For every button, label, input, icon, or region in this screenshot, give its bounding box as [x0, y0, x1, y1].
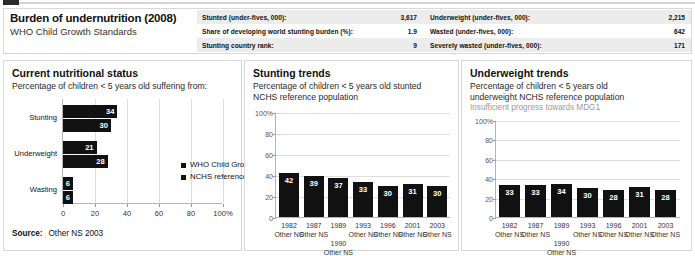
bar: 21 [63, 141, 97, 154]
panel-current-nutritional-status: Current nutritional status Percentage of… [3, 60, 242, 251]
x-axis-year-label: 2003 [658, 222, 674, 229]
stat-value: 3,617 [400, 14, 423, 21]
panel-subtitle: Percentage of children < 5 years old suf… [12, 81, 241, 92]
stat-row: Stunting country rank: 9 Severely wasted… [197, 38, 691, 52]
stat-value: 642 [674, 28, 691, 35]
panel-stunting-trends: Stunting trends Percentage of children <… [244, 60, 459, 251]
grid-line [496, 179, 680, 180]
legend-swatch [181, 163, 186, 168]
bar-value-label: 30 [577, 191, 598, 200]
grid-line [276, 155, 450, 156]
y-axis-tick [493, 140, 496, 141]
stat-label: Severely wasted (under-fives, 000): [430, 42, 542, 49]
stunting-trends-chart: 020406080100%421982Other NS391987Other N… [245, 61, 458, 250]
x-axis-tick [63, 204, 64, 207]
y-axis-tick-label: 60 [265, 152, 273, 159]
stat-label: Wasted (under-fives, 000): [430, 28, 513, 35]
source-line: Source:Other NS 2003 [12, 229, 103, 238]
top-rule [19, 2, 695, 4]
bar-value-label: 6 [66, 178, 70, 189]
panel-title: Current nutritional status [12, 67, 241, 79]
x-axis-source-label: Other NS [573, 231, 602, 238]
x-axis-tick-label: 0 [61, 209, 65, 218]
bar: 42 [279, 173, 299, 217]
stat-cell: Underweight (under-fives, 000): 2,215 [423, 10, 691, 24]
x-axis-source-label: Other NS [547, 249, 576, 256]
bar-value-label: 28 [96, 156, 104, 167]
page-subtitle: WHO Child Growth Standards [10, 26, 191, 38]
grid-line [223, 99, 224, 203]
stat-cell: Stunting country rank: 9 [197, 38, 423, 52]
x-axis-source-label: Other NS [299, 231, 328, 238]
chart-plot-area: 020406080100%421982Other NS391987Other N… [275, 113, 450, 218]
x-axis-source-label: Other NS [521, 231, 550, 238]
stat-value: 9 [413, 42, 423, 49]
source-label: Source: [12, 229, 42, 238]
source-value: Other NS 2003 [48, 229, 103, 238]
bar-value-label: 33 [525, 188, 546, 197]
bar: 33 [525, 185, 546, 217]
bar: 31 [629, 187, 650, 217]
category-label: Underweight [0, 149, 57, 158]
burden-header-band: Burden of undernutrition (2008) WHO Chil… [3, 8, 692, 54]
page-title: Burden of undernutrition (2008) [10, 12, 191, 25]
x-axis-year-label: 1996 [606, 222, 622, 229]
y-axis-tick [493, 199, 496, 200]
x-axis-year-label: 1982 [502, 222, 518, 229]
stat-value: 171 [674, 42, 691, 49]
y-axis-tick [273, 197, 276, 198]
grid-line [276, 176, 450, 177]
x-axis-year-label: 1996 [380, 222, 396, 229]
header-title-cell: Burden of undernutrition (2008) WHO Chil… [4, 9, 197, 53]
x-axis-tick-label: 80 [187, 209, 195, 218]
panel-underweight-trends: Underweight trends Percentage of childre… [461, 60, 692, 251]
x-axis-tick-label: 20 [91, 209, 99, 218]
y-axis-tick [273, 113, 276, 114]
x-axis-source-label: Other NS [423, 231, 452, 238]
bar-value-label: 21 [85, 142, 93, 153]
grid-line [496, 160, 680, 161]
y-axis-tick [493, 121, 496, 122]
y-axis-tick [493, 160, 496, 161]
category-label: Wasting [0, 185, 57, 194]
x-axis-year-label: 2001 [405, 222, 421, 229]
x-axis-source-label: Other NS [495, 231, 524, 238]
y-axis-tick [273, 218, 276, 219]
bar: 34 [63, 105, 117, 118]
bar-value-label: 31 [403, 187, 423, 196]
x-axis-tick [95, 204, 96, 207]
bar-value-label: 42 [279, 176, 299, 185]
bar: 6 [63, 191, 73, 204]
y-axis-tick-label: 80 [485, 137, 493, 144]
grid-line [127, 99, 128, 203]
stat-row: Stunted (under-fives, 000): 3,617 Underw… [197, 10, 691, 24]
bar-value-label: 37 [328, 181, 348, 190]
y-axis-tick [493, 179, 496, 180]
x-axis-tick-label: 60 [155, 209, 163, 218]
bar-value-label: 34 [106, 106, 114, 117]
x-axis-tick-label: 40 [123, 209, 131, 218]
y-axis-tick-label: 40 [485, 176, 493, 183]
x-axis-tick [159, 204, 160, 207]
burden-stats-grid: Stunted (under-fives, 000): 3,617 Underw… [197, 9, 691, 53]
x-axis-tick [127, 204, 128, 207]
grid-line [276, 113, 450, 114]
stat-cell: Stunted (under-fives, 000): 3,617 [197, 10, 423, 24]
bar: 30 [378, 186, 398, 218]
y-axis-tick [273, 176, 276, 177]
x-axis-year-label: 1982 [281, 222, 297, 229]
corner-marker [3, 0, 19, 5]
horizontal-bar-chart: 020406080100%Stunting3430Underweight2128… [4, 95, 241, 227]
y-axis-tick [493, 218, 496, 219]
x-axis-tick [191, 204, 192, 207]
bar-value-label: 30 [378, 189, 398, 198]
x-axis-year-label: 1990 [554, 240, 570, 247]
stat-value: 2,215 [668, 14, 691, 21]
x-axis-year-label: 2003 [429, 222, 445, 229]
grid-line [191, 99, 192, 203]
stat-label: Underweight (under-fives, 000): [430, 14, 530, 21]
bar: 33 [353, 182, 373, 217]
x-axis-source-label: Other NS [625, 231, 654, 238]
bar-value-label: 31 [629, 190, 650, 199]
